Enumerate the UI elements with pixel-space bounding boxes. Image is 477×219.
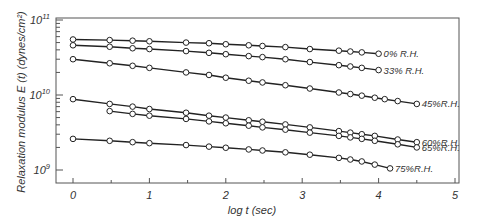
data-point-marker <box>70 37 76 43</box>
data-point-marker <box>372 138 378 144</box>
data-point-marker <box>307 152 313 158</box>
data-point-marker <box>147 140 153 146</box>
x-tick-label: 4 <box>376 189 382 201</box>
data-point-marker <box>359 136 365 142</box>
data-point-marker <box>376 67 382 73</box>
series-60-r-h: 60%R.H. <box>70 96 460 147</box>
data-point-marker <box>307 86 313 92</box>
data-point-marker <box>414 101 420 107</box>
data-point-marker <box>395 98 401 104</box>
data-point-marker <box>223 115 229 121</box>
data-point-marker <box>260 54 266 60</box>
x-axis-ticks <box>73 178 455 183</box>
data-point-marker <box>206 144 212 150</box>
data-point-marker <box>336 90 342 96</box>
data-point-marker <box>307 46 313 52</box>
data-point-marker <box>223 145 229 151</box>
series-line <box>73 99 417 142</box>
y-tick-label: 1010 <box>29 87 50 101</box>
data-point-marker <box>336 155 342 161</box>
x-tick-label: 2 <box>222 189 229 201</box>
data-point-marker <box>223 41 229 47</box>
x-axis-tick-labels: 012345 <box>70 189 459 201</box>
data-point-marker <box>283 44 289 50</box>
data-point-marker <box>348 135 354 141</box>
y-tick-label: 109 <box>34 162 51 176</box>
x-tick-label: 0 <box>70 189 77 201</box>
series-label: 45%R.H. <box>422 98 460 109</box>
data-point-marker <box>359 65 365 71</box>
data-point-marker <box>223 75 229 81</box>
data-point-marker <box>283 82 289 88</box>
data-point-marker <box>336 133 342 139</box>
y-axis-tick-labels: 10910101011 <box>29 12 50 176</box>
data-point-marker <box>70 56 76 62</box>
data-point-marker <box>206 119 212 125</box>
data-point-marker <box>147 106 153 112</box>
series-line <box>73 139 390 169</box>
data-point-marker <box>147 65 153 71</box>
data-point-marker <box>107 60 113 66</box>
series-label: 33% R.H. <box>384 65 425 76</box>
data-point-marker <box>130 111 136 117</box>
data-point-marker <box>359 93 365 99</box>
data-point-marker <box>107 37 113 43</box>
series-label: 65%R.H. <box>422 142 460 153</box>
data-point-marker <box>260 125 266 131</box>
data-point-marker <box>307 59 313 65</box>
data-point-marker <box>387 166 393 172</box>
data-point-marker <box>283 56 289 62</box>
series-line <box>73 45 379 70</box>
data-point-marker <box>359 50 365 56</box>
data-point-marker <box>183 70 189 76</box>
data-point-marker <box>70 136 76 142</box>
data-point-marker <box>376 51 382 57</box>
data-point-marker <box>372 162 378 168</box>
data-point-marker <box>107 44 113 50</box>
data-point-marker <box>246 117 252 123</box>
data-point-marker <box>260 119 266 125</box>
y-tick-label: 1011 <box>30 12 50 26</box>
data-point-marker <box>130 38 136 44</box>
data-point-marker <box>336 48 342 54</box>
data-point-marker <box>107 138 113 144</box>
data-point-marker <box>183 40 189 46</box>
data-point-marker <box>382 96 388 102</box>
data-point-marker <box>183 142 189 148</box>
data-point-marker <box>246 53 252 59</box>
data-point-marker <box>70 96 76 102</box>
series-65-r-h: 65%R.H. <box>107 108 460 153</box>
data-point-marker <box>336 62 342 68</box>
x-tick-label: 5 <box>452 189 459 201</box>
data-point-marker <box>395 142 401 148</box>
data-point-marker <box>246 147 252 153</box>
series-label: 75%R.H. <box>395 163 433 174</box>
data-point-marker <box>260 148 266 154</box>
data-point-marker <box>206 40 212 46</box>
y-axis-title: Relaxation modulus E (t) (dynes/cm²) <box>15 11 27 193</box>
data-point-marker <box>372 95 378 101</box>
data-point-marker <box>206 113 212 119</box>
data-point-marker <box>130 45 136 51</box>
data-point-marker <box>348 49 354 55</box>
data-point-marker <box>348 64 354 70</box>
data-point-marker <box>130 63 136 69</box>
series-line <box>73 59 417 104</box>
data-point-marker <box>359 159 365 165</box>
series-layer: 0% R.H.33% R.H.45%R.H.60%R.H.65%R.H.75%R… <box>70 37 460 174</box>
x-axis-title: log t (sec) <box>228 204 277 216</box>
data-point-marker <box>130 139 136 145</box>
data-point-marker <box>183 48 189 54</box>
data-point-marker <box>260 43 266 49</box>
x-tick-label: 1 <box>146 189 152 201</box>
data-point-marker <box>223 51 229 57</box>
data-point-marker <box>260 80 266 86</box>
data-point-marker <box>348 91 354 97</box>
data-point-marker <box>130 104 136 110</box>
data-point-marker <box>283 150 289 156</box>
relaxation-modulus-chart: 10910101011 012345 0% R.H.33% R.H.45%R.H… <box>0 0 477 219</box>
data-point-marker <box>70 42 76 48</box>
data-point-marker <box>107 108 113 114</box>
data-point-marker <box>307 130 313 136</box>
data-point-marker <box>223 120 229 126</box>
